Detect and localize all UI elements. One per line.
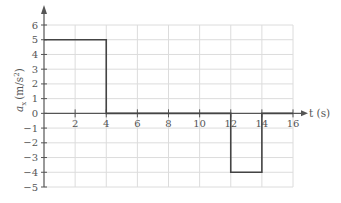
svg-text:3: 3 — [32, 64, 38, 75]
svg-text:−3: −3 — [23, 152, 38, 163]
svg-text:2: 2 — [32, 78, 38, 89]
svg-text:6: 6 — [32, 20, 38, 31]
x-axis-label: t (s) — [309, 107, 330, 119]
svg-text:−5: −5 — [23, 182, 38, 193]
svg-text:0: 0 — [32, 108, 38, 119]
svg-text:8: 8 — [165, 118, 171, 129]
grid-lines — [44, 25, 293, 187]
svg-text:6: 6 — [134, 118, 140, 129]
axes — [41, 5, 308, 187]
svg-text:4: 4 — [32, 49, 38, 60]
svg-text:−2: −2 — [23, 137, 38, 148]
svg-text:4: 4 — [103, 118, 109, 129]
y-axis-label: ax(m/s2) — [13, 68, 28, 112]
acceleration-chart: 6543210−1−2−3−4−5246810121416 t (s) ax(m… — [0, 0, 341, 203]
svg-text:16: 16 — [287, 118, 300, 129]
svg-text:5: 5 — [32, 34, 38, 45]
svg-text:−4: −4 — [23, 167, 38, 178]
tick-labels: 6543210−1−2−3−4−5246810121416 — [23, 20, 299, 193]
svg-text:1: 1 — [32, 93, 38, 104]
svg-text:10: 10 — [193, 118, 206, 129]
svg-text:−1: −1 — [23, 123, 38, 134]
svg-text:2: 2 — [72, 118, 78, 129]
